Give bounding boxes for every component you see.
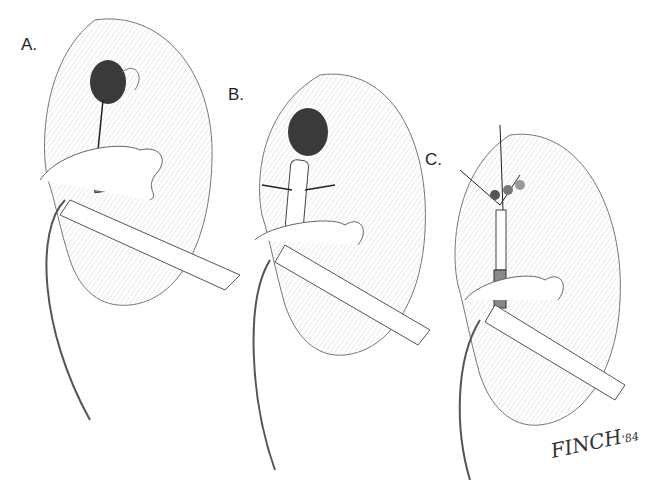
panel-c-kidney: [455, 125, 625, 480]
panel-label-a: A.: [21, 35, 37, 55]
panel-b-kidney: [254, 74, 430, 470]
panel-label-c: C.: [425, 150, 442, 170]
panel-a-kidney: [40, 19, 240, 420]
kidney-drawings: [0, 0, 645, 492]
panel-label-b: B.: [228, 85, 244, 105]
